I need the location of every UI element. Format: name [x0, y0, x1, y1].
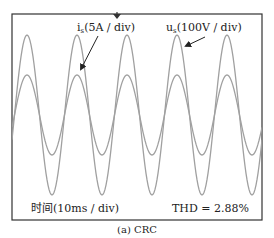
current-trace-label: is(5A / div)	[77, 22, 135, 37]
voltage-scale: (100V / div)	[177, 21, 242, 34]
voltage-waveform	[12, 35, 262, 195]
current-scale: (5A / div)	[84, 21, 135, 34]
thd-label: THD = 2.88%	[172, 203, 249, 215]
time-scale-label: 时间(10ms / div)	[31, 203, 119, 215]
voltage-label-arrow	[186, 37, 205, 46]
current-label-arrow	[81, 36, 98, 69]
figure-caption: (a) CRC	[0, 224, 274, 236]
voltage-trace-label: us(100V / div)	[166, 22, 242, 37]
